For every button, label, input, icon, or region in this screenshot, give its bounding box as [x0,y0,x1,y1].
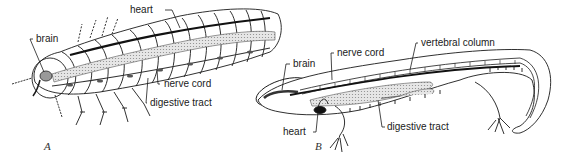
figure-drawing [0,0,562,163]
arthropod-drawing [12,9,281,125]
label-digestive-tract-a: digestive tract [150,98,212,108]
panel-label-a: A [44,140,51,152]
label-heart-b: heart [283,127,306,137]
label-vertebral-column-b: vertebral column [421,38,495,48]
label-nerve-cord-a: nerve cord [164,79,211,89]
label-brain-b: brain [293,59,315,69]
label-nerve-cord-b: nerve cord [337,48,384,58]
panel-label-b: B [315,140,322,152]
label-digestive-tract-b: digestive tract [387,122,449,132]
label-brain-a: brain [36,34,58,44]
label-heart-a: heart [130,5,153,15]
